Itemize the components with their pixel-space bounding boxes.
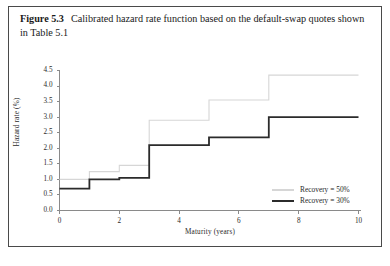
y-axis-tick-label: 2.5: [31, 128, 53, 136]
y-axis-tick-label: 4.0: [31, 81, 53, 89]
chart-plot-area: Hazard rate (%) Maturity (years) 0.00.51…: [0, 0, 390, 266]
legend-item-label: Recovery = 50%: [300, 185, 350, 194]
y-axis-tick-label: 3.0: [31, 113, 53, 121]
y-axis-tick-label: 3.5: [31, 97, 53, 105]
y-axis-tick-label: 2.0: [31, 144, 53, 152]
y-axis-tick-label: 0.0: [31, 206, 53, 214]
legend-swatches: [272, 190, 294, 201]
y-axis-tick-label: 4.5: [31, 66, 53, 74]
x-axis-tick-label: 2: [109, 217, 129, 225]
y-axis-tick-label: 1.0: [31, 175, 53, 183]
x-axis-tick-label: 6: [229, 217, 249, 225]
x-axis-tick-label: 4: [169, 217, 189, 225]
legend-item-label: Recovery = 30%: [300, 196, 350, 205]
series-line-1: [60, 75, 359, 179]
chart-svg: [0, 0, 390, 266]
x-axis-tick-label: 8: [289, 217, 309, 225]
x-axis-tick-label: 0: [50, 217, 70, 225]
x-axis-tick-label: 10: [349, 217, 369, 225]
y-axis-tick-label: 0.5: [31, 190, 53, 198]
figure-page: Figure 5.3Calibrated hazard rate functio…: [0, 0, 390, 266]
series-line-2: [60, 117, 359, 189]
y-axis-tick-label: 1.5: [31, 159, 53, 167]
data-series-group: [60, 75, 359, 189]
